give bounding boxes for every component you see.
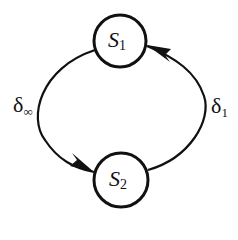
transition-edge-s2-to-s1	[147, 46, 206, 170]
transition-label-delta-infinity: δ∞	[13, 94, 33, 118]
state-label-s2: S2	[109, 168, 127, 192]
transition-label-delta-1: δ1	[211, 95, 228, 119]
state-label-s1: S1	[108, 29, 126, 53]
transition-edge-s1-to-s2	[38, 50, 95, 172]
arrowhead-icon	[147, 45, 171, 62]
